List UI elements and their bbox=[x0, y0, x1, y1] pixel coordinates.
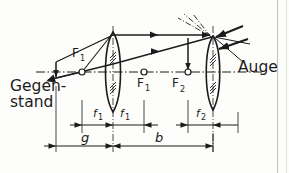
focus-1-left-subscript: 1 bbox=[80, 54, 85, 63]
focus-1-left-letter: F bbox=[72, 46, 79, 60]
focal-length-1b-subscript: 1 bbox=[125, 113, 130, 122]
focal-length-1a-subscript: 1 bbox=[98, 113, 103, 122]
focal-length-2-subscript: 2 bbox=[201, 113, 206, 122]
focal-point-marker-icon bbox=[79, 69, 85, 75]
image-distance-label: b bbox=[155, 130, 163, 145]
object-label-line2: stand bbox=[10, 93, 53, 111]
focus-1-right-subscript: 1 bbox=[145, 84, 150, 93]
eye-label: Auge bbox=[238, 58, 278, 76]
focal-point-marker-icon bbox=[141, 69, 147, 75]
figure-canvas: Gegen- stand Auge F 1 F 1 F 2 f 1 f 1 f … bbox=[0, 0, 289, 173]
optics-ray-diagram: Gegen- stand Auge F 1 F 1 F 2 f 1 f 1 f … bbox=[0, 0, 289, 173]
focus-2-subscript: 2 bbox=[180, 85, 185, 94]
focus-2-letter: F bbox=[172, 76, 179, 90]
object-distance-label: g bbox=[81, 130, 89, 145]
focal-point-marker-icon bbox=[185, 69, 191, 75]
focus-1-right-letter: F bbox=[137, 76, 144, 90]
